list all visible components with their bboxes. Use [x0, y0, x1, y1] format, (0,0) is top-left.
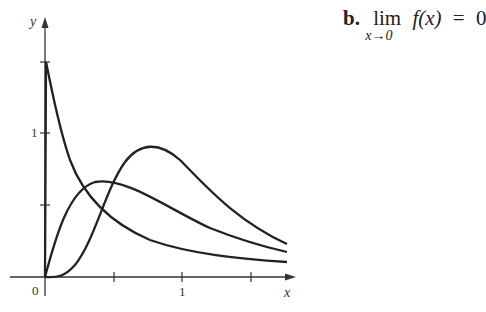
- y-axis-label: y: [30, 14, 36, 30]
- origin-label: 0: [32, 283, 39, 299]
- limit-caption: b. lim x→0 f(x) = 0: [343, 6, 486, 31]
- x-axis-label: x: [284, 285, 290, 301]
- limit-value: 0: [476, 6, 486, 30]
- x-tick-label-1: 1: [179, 284, 186, 300]
- lim-text: lim: [373, 6, 401, 30]
- curve-early-peak: [45, 181, 287, 277]
- equals-sign: =: [453, 6, 465, 30]
- limit-operator: lim x→0: [373, 6, 401, 31]
- lim-subscript: x→0: [365, 28, 392, 44]
- caption-label: b.: [343, 6, 360, 30]
- y-tick-label-1: 1: [31, 125, 38, 141]
- curve-late-peak: [45, 147, 287, 277]
- curve-decreasing: [45, 62, 287, 277]
- function-expression: f(x): [412, 6, 441, 30]
- y-axis-arrow-icon: [42, 17, 49, 28]
- chart-plot: [0, 0, 300, 312]
- x-axis-arrow-icon: [285, 274, 296, 281]
